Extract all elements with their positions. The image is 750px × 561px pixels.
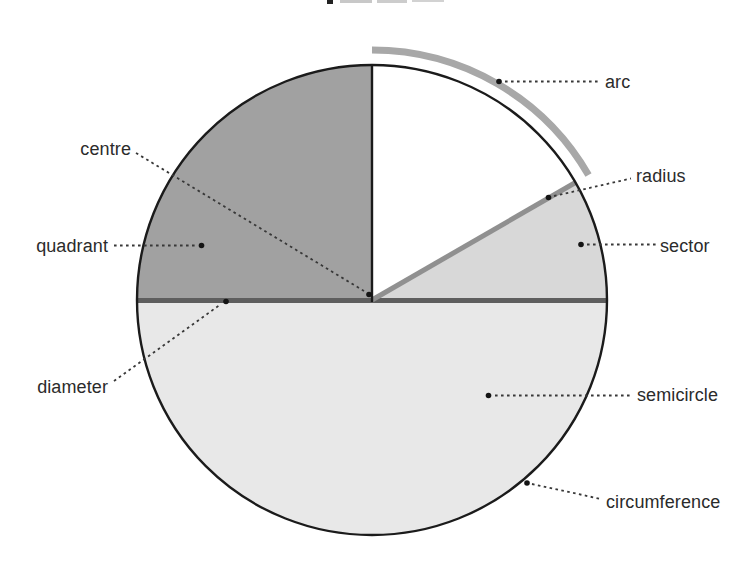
label-sector: sector xyxy=(660,237,710,255)
cropped-title-remnant xyxy=(327,0,444,4)
label-diameter: diameter xyxy=(37,378,108,396)
quadrant-marker-dot xyxy=(199,243,205,249)
cropped-title-mark xyxy=(412,0,444,2)
circle-parts-diagram: arc radius sector semicircle circumferen… xyxy=(0,0,750,561)
diameter-marker-dot xyxy=(223,299,229,305)
centre-marker-dot xyxy=(366,292,372,298)
circle-diagram-canvas xyxy=(0,0,750,561)
label-quadrant: quadrant xyxy=(36,237,108,255)
cropped-title-mark xyxy=(327,0,333,4)
quadrant-region xyxy=(137,65,372,300)
cropped-title-mark xyxy=(377,0,407,3)
radius-marker-dot xyxy=(546,195,552,201)
semicircle-marker-dot xyxy=(486,393,492,399)
label-radius: radius xyxy=(636,167,686,185)
label-semicircle: semicircle xyxy=(637,386,718,404)
arc-marker-dot xyxy=(496,79,502,85)
circumference-leader-line xyxy=(532,484,601,499)
cropped-title-mark xyxy=(340,0,372,3)
label-arc: arc xyxy=(605,73,630,91)
circumference-marker-dot xyxy=(524,480,530,486)
label-centre: centre xyxy=(80,140,131,158)
label-circumference: circumference xyxy=(606,493,720,511)
sector-marker-dot xyxy=(578,242,584,248)
semicircle-region xyxy=(137,300,607,535)
outer-arc xyxy=(372,50,589,175)
